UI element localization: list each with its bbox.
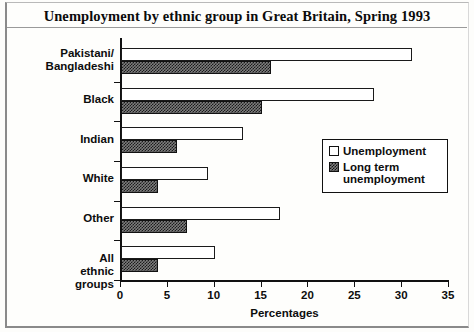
bar [121, 259, 158, 272]
x-axis-tick-label: 25 [348, 289, 361, 301]
x-axis-tick-label: 20 [301, 289, 314, 301]
legend-item-long-term-unemployment: Long term unemployment [329, 161, 441, 186]
bar [121, 101, 262, 114]
hatched-square-icon [329, 162, 339, 172]
open-square-icon [329, 146, 339, 156]
y-axis-category-label: All ethnic groups [75, 252, 114, 291]
x-axis-tick-label: 0 [117, 289, 123, 301]
y-axis-category-label: White [83, 172, 114, 185]
x-axis-line [120, 280, 449, 282]
y-axis-tick [114, 121, 121, 122]
x-axis-tick-label: 30 [395, 289, 408, 301]
x-axis-tick [401, 280, 402, 287]
legend-label: Unemployment [343, 145, 426, 158]
y-axis-tick [114, 201, 121, 202]
y-axis-line [120, 38, 122, 280]
chart-figure: Unemployment by ethnic group in Great Br… [0, 0, 474, 332]
y-axis-category-label: Black [83, 93, 114, 106]
x-axis-tick [167, 280, 168, 287]
x-axis-tick-label: 35 [442, 289, 455, 301]
x-axis-tick [120, 280, 121, 287]
bar [121, 180, 158, 193]
bar [121, 246, 215, 259]
bar [121, 48, 412, 61]
bar [121, 207, 280, 220]
x-axis-tick [307, 280, 308, 287]
legend-label: Long term unemployment [343, 161, 425, 186]
x-axis-title: Percentages [120, 307, 449, 319]
y-axis-category-label: Pakistani/ Bangladeshi [46, 47, 114, 73]
bar [121, 61, 271, 74]
bar [121, 127, 243, 140]
x-axis-tick [261, 280, 262, 287]
title-divider [7, 27, 467, 28]
y-axis-tick [114, 82, 121, 83]
x-axis-tick [354, 280, 355, 287]
chart-legend: Unemployment Long term unemployment [322, 139, 448, 193]
x-axis-tick-label: 5 [164, 289, 170, 301]
y-axis-tick [114, 161, 121, 162]
legend-item-unemployment: Unemployment [329, 145, 441, 158]
y-axis-category-label: Other [83, 212, 114, 225]
x-axis-tick [448, 280, 449, 287]
bar [121, 88, 374, 101]
x-axis-tick-label: 15 [254, 289, 267, 301]
y-axis-tick [114, 280, 121, 281]
y-axis-category-label: Indian [80, 133, 114, 146]
bar [121, 220, 187, 233]
chart-title: Unemployment by ethnic group in Great Br… [14, 8, 460, 25]
x-axis-tick-label: 10 [207, 289, 220, 301]
x-axis-tick [214, 280, 215, 287]
bar [121, 167, 208, 180]
bar [121, 140, 177, 153]
y-axis-tick [114, 240, 121, 241]
